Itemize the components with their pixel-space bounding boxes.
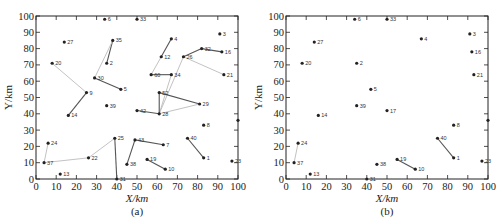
node-marker bbox=[472, 73, 475, 76]
y-tick-label: 10 bbox=[274, 157, 285, 168]
node-label: 23 bbox=[485, 158, 491, 164]
node-label: 13 bbox=[63, 171, 69, 177]
node-marker bbox=[230, 159, 233, 162]
x-tick-label: 30 bbox=[341, 181, 352, 192]
node-label: 32 bbox=[205, 46, 211, 52]
x-tick-label: 70 bbox=[422, 181, 433, 192]
x-tick-label: 30 bbox=[91, 181, 102, 192]
node-label: 43 bbox=[138, 137, 144, 143]
node-marker bbox=[125, 163, 128, 166]
node-label: 21 bbox=[477, 72, 483, 78]
node-marker bbox=[103, 18, 106, 21]
node-marker bbox=[202, 156, 205, 159]
y-axis-title: Y/km bbox=[2, 85, 14, 111]
x-tick-label: 40 bbox=[112, 181, 123, 192]
node-marker bbox=[301, 62, 304, 65]
node-label: 6 bbox=[358, 16, 361, 22]
node-label: 26 bbox=[186, 54, 192, 60]
node-marker bbox=[162, 143, 165, 146]
x-tick-label: 80 bbox=[442, 181, 453, 192]
node-marker bbox=[297, 142, 300, 145]
node-marker bbox=[115, 177, 118, 180]
y-tick-label: 0 bbox=[279, 174, 284, 185]
node-marker bbox=[353, 18, 356, 21]
node-label: 2 bbox=[110, 60, 113, 66]
node-label: 39 bbox=[110, 103, 116, 109]
node-label: 52 bbox=[162, 90, 168, 96]
node-label: 3 bbox=[473, 31, 476, 37]
node-marker bbox=[452, 124, 455, 127]
x-tick-label: 50 bbox=[132, 181, 143, 192]
x-tick-label: 40 bbox=[362, 181, 373, 192]
node-marker bbox=[436, 137, 439, 140]
node-label: 12 bbox=[164, 54, 170, 60]
figure-canvas: 0102030405060708090100010203040506070809… bbox=[0, 0, 502, 224]
node-label: 40 bbox=[441, 135, 447, 141]
node-label: 16 bbox=[225, 49, 231, 55]
node-marker bbox=[111, 39, 114, 42]
node-marker bbox=[355, 62, 358, 65]
node-marker bbox=[47, 142, 50, 145]
node-marker bbox=[220, 50, 223, 53]
x-axis-title: X/km bbox=[125, 192, 149, 204]
x-tick-label: 0 bbox=[283, 181, 288, 192]
y-tick-label: 70 bbox=[274, 59, 285, 70]
x-tick-label: 60 bbox=[152, 181, 163, 192]
node-marker bbox=[105, 104, 108, 107]
node-marker bbox=[292, 161, 295, 164]
node-label: 4 bbox=[424, 36, 427, 42]
node-label: 37 bbox=[297, 160, 303, 166]
y-tick-label: 40 bbox=[274, 108, 285, 119]
node-marker bbox=[222, 73, 225, 76]
node-label: 42 bbox=[140, 108, 146, 114]
node-label: 8 bbox=[207, 122, 210, 128]
node-label: 33 bbox=[140, 16, 146, 22]
node-label: 1 bbox=[207, 155, 210, 161]
node-label: 10 bbox=[168, 166, 174, 172]
node-marker bbox=[200, 47, 203, 50]
y-tick-label: 70 bbox=[24, 59, 35, 70]
node-marker bbox=[198, 102, 201, 105]
node-marker bbox=[182, 55, 185, 58]
node-marker bbox=[158, 112, 161, 115]
node-label: 23 bbox=[235, 158, 241, 164]
node-label: 3 bbox=[223, 31, 226, 37]
node-marker bbox=[486, 119, 489, 122]
node-label: 13 bbox=[313, 171, 319, 177]
y-tick-label: 90 bbox=[274, 27, 285, 38]
node-marker bbox=[218, 32, 221, 35]
y-tick-label: 60 bbox=[274, 76, 285, 87]
node-label: 24 bbox=[301, 140, 307, 146]
node-label: 2 bbox=[360, 60, 363, 66]
node-marker bbox=[355, 104, 358, 107]
y-tick-label: 80 bbox=[274, 43, 285, 54]
y-tick-label: 90 bbox=[24, 27, 35, 38]
node-marker bbox=[105, 62, 108, 65]
node-label: 60 bbox=[154, 72, 160, 78]
node-label: 10 bbox=[418, 166, 424, 172]
node-marker bbox=[414, 168, 417, 171]
node-label: 38 bbox=[380, 161, 386, 167]
route-edge bbox=[159, 57, 183, 114]
node-label: 27 bbox=[317, 39, 323, 45]
node-label: 25 bbox=[118, 135, 124, 141]
node-marker bbox=[313, 40, 316, 43]
y-tick-label: 50 bbox=[274, 92, 285, 103]
node-label: 28 bbox=[162, 111, 168, 117]
node-label: 9 bbox=[90, 90, 93, 96]
node-marker bbox=[67, 114, 70, 117]
panel-a: 0102030405060708090100010203040506070809… bbox=[2, 11, 246, 219]
node-marker bbox=[51, 62, 54, 65]
node-label: 34 bbox=[174, 72, 180, 78]
figure: 0102030405060708090100010203040506070809… bbox=[0, 0, 502, 224]
y-tick-label: 30 bbox=[274, 125, 285, 136]
y-tick-label: 20 bbox=[24, 141, 35, 152]
y-tick-label: 30 bbox=[24, 125, 35, 136]
x-tick-label: 50 bbox=[382, 181, 393, 192]
y-tick-label: 10 bbox=[24, 157, 35, 168]
node-marker bbox=[87, 156, 90, 159]
y-tick-label: 50 bbox=[24, 92, 35, 103]
node-label: 27 bbox=[67, 39, 73, 45]
node-marker bbox=[42, 161, 45, 164]
node-label: 5 bbox=[374, 86, 377, 92]
